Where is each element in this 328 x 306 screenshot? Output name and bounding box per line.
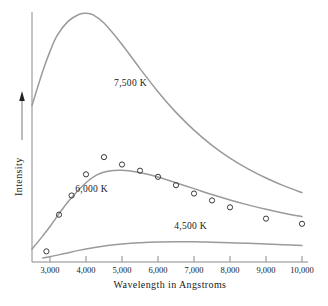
curve-6-000-k <box>32 170 302 249</box>
data-point-marker <box>227 205 232 210</box>
curve-4-500-k <box>43 242 302 258</box>
data-point-marker <box>191 191 196 196</box>
intensity-arrow-icon <box>19 91 25 140</box>
x-axis-tick-labels: 3,0004,0005,0006,0007,0008,0009,00010,00… <box>40 265 313 275</box>
chart-canvas: 3,0004,0005,0006,0007,0008,0009,00010,00… <box>0 0 328 306</box>
data-point-marker <box>209 198 214 203</box>
x-tick-label: 6,000 <box>148 265 167 275</box>
observed-data-points <box>44 155 305 254</box>
x-axis-title: Wavelength in Angstroms <box>114 279 227 290</box>
x-tick-label: 4,000 <box>76 265 95 275</box>
y-axis-title: Intensity <box>13 157 24 196</box>
curve-label-group: 7,500 K6,000 K4,500 K <box>75 78 207 231</box>
x-tick-label: 8,000 <box>220 265 239 275</box>
data-point-marker <box>263 216 268 221</box>
curve-label-6-000-k: 6,000 K <box>75 184 108 194</box>
x-tick-label: 3,000 <box>40 265 59 275</box>
x-tick-label: 7,000 <box>184 265 203 275</box>
arrow-head-icon <box>19 91 25 101</box>
blackbody-radiation-chart: 3,0004,0005,0006,0007,0008,0009,00010,00… <box>0 0 328 306</box>
curve-7-500-k <box>32 13 302 192</box>
x-tick-label: 10,000 <box>290 265 313 275</box>
data-point-marker <box>101 155 106 160</box>
curve-group <box>32 13 302 258</box>
x-axis-ticks <box>50 256 302 262</box>
x-tick-label: 5,000 <box>112 265 131 275</box>
x-axis: 3,0004,0005,0006,0007,0008,0009,00010,00… <box>32 256 314 275</box>
data-point-marker <box>83 172 88 177</box>
x-tick-label: 9,000 <box>256 265 275 275</box>
data-point-marker <box>299 221 304 226</box>
data-point-marker <box>119 162 124 167</box>
curve-label-7-500-k: 7,500 K <box>114 78 147 88</box>
curve-label-4-500-k: 4,500 K <box>174 221 207 231</box>
data-point-marker <box>44 249 49 254</box>
